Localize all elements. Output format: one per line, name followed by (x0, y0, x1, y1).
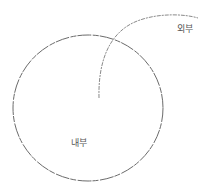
outside-label: 외부 (177, 22, 193, 35)
inner-region-circle (13, 35, 163, 181)
inside-label: 내부 (71, 136, 87, 149)
